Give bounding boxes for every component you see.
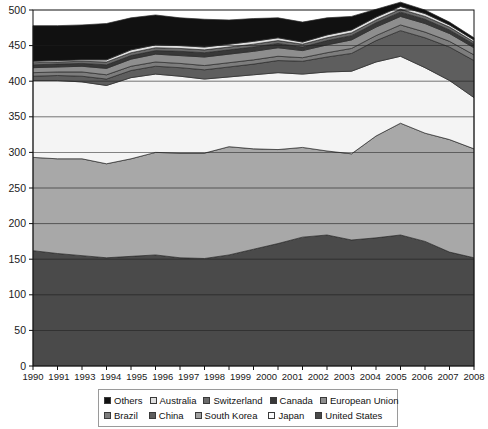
legend-swatch-united-states	[315, 412, 322, 419]
legend-swatch-china	[149, 412, 156, 419]
legend-row-1: Others Australia Switzerland Canada Euro…	[104, 393, 393, 408]
legend-swatch-brazil	[104, 412, 111, 419]
x-tick-label-2004: 2004	[360, 371, 381, 382]
chart-canvas: 050100150200250300350400450500 199019911…	[0, 0, 488, 429]
x-tick-label-1993: 1993	[74, 371, 95, 382]
legend-label-united-states: United States	[325, 410, 382, 421]
x-tick-label-1994: 1994	[100, 371, 121, 382]
legend-label-others: Others	[114, 395, 143, 406]
legend-swatch-european-union	[320, 397, 327, 404]
legend-item-japan[interactable]: Japan	[268, 410, 304, 421]
legend-item-united-states[interactable]: United States	[315, 410, 382, 421]
legend-swatch-south-korea	[195, 412, 202, 419]
legend-label-switzerland: Switzerland	[213, 395, 262, 406]
plot-area	[33, 2, 474, 366]
legend-swatch-japan	[268, 412, 275, 419]
x-tick-label-2007: 2007	[437, 371, 458, 382]
legend-label-brazil: Brazil	[114, 410, 138, 421]
x-tick-label-1990: 1990	[22, 371, 43, 382]
chart-legend: Others Australia Switzerland Canada Euro…	[98, 389, 398, 427]
y-tick-label-300: 300	[8, 146, 26, 158]
y-tick-label-100: 100	[8, 288, 26, 300]
x-tick-label-2002: 2002	[308, 371, 329, 382]
y-tick-label-200: 200	[8, 217, 26, 229]
legend-label-japan: Japan	[278, 410, 304, 421]
legend-swatch-australia	[150, 397, 157, 404]
x-tick-label-2006: 2006	[412, 371, 433, 382]
legend-swatch-switzerland	[203, 397, 210, 404]
y-tick-label-0: 0	[20, 360, 26, 372]
y-tick-label-400: 400	[8, 75, 26, 87]
y-tick-label-250: 250	[8, 182, 26, 194]
x-tick-label-1991: 1991	[48, 371, 69, 382]
legend-item-switzerland[interactable]: Switzerland	[203, 395, 262, 406]
legend-item-china[interactable]: China	[149, 410, 184, 421]
x-tick-label-2003: 2003	[334, 371, 355, 382]
x-tick-label-2000: 2000	[256, 371, 277, 382]
x-tick-label-1997: 1997	[178, 371, 199, 382]
x-tick-label-2005: 2005	[386, 371, 407, 382]
legend-label-european-union: European Union	[330, 395, 399, 406]
x-tick-label-2008: 2008	[463, 371, 484, 382]
y-tick-label-450: 450	[8, 39, 26, 51]
y-tick-label-150: 150	[8, 253, 26, 265]
stacked-area-chart: 050100150200250300350400450500 199019911…	[0, 0, 488, 429]
legend-label-australia: Australia	[160, 395, 197, 406]
legend-label-canada: Canada	[280, 395, 313, 406]
x-axis-tick-marks	[33, 366, 474, 370]
legend-item-european-union[interactable]: European Union	[320, 395, 399, 406]
legend-swatch-canada	[270, 397, 277, 404]
y-axis-tick-labels: 050100150200250300350400450500	[8, 4, 26, 372]
x-tick-label-1996: 1996	[152, 371, 173, 382]
x-tick-label-1998: 1998	[204, 371, 225, 382]
legend-item-canada[interactable]: Canada	[270, 395, 313, 406]
x-tick-label-1999: 1999	[230, 371, 251, 382]
legend-label-china: China	[159, 410, 184, 421]
legend-swatch-others	[104, 397, 111, 404]
x-axis-tick-labels: 1990199119931994199519961997199819992000…	[22, 371, 484, 382]
x-tick-label-2001: 2001	[282, 371, 303, 382]
x-tick-label-1995: 1995	[126, 371, 147, 382]
y-tick-label-500: 500	[8, 4, 26, 16]
y-tick-label-50: 50	[14, 324, 26, 336]
legend-item-australia[interactable]: Australia	[150, 395, 197, 406]
legend-row-2: Brazil China South Korea Japan United St…	[104, 408, 393, 423]
legend-item-brazil[interactable]: Brazil	[104, 410, 138, 421]
legend-item-south-korea[interactable]: South Korea	[195, 410, 258, 421]
y-tick-label-350: 350	[8, 110, 26, 122]
legend-item-others[interactable]: Others	[104, 395, 143, 406]
legend-label-south-korea: South Korea	[205, 410, 258, 421]
